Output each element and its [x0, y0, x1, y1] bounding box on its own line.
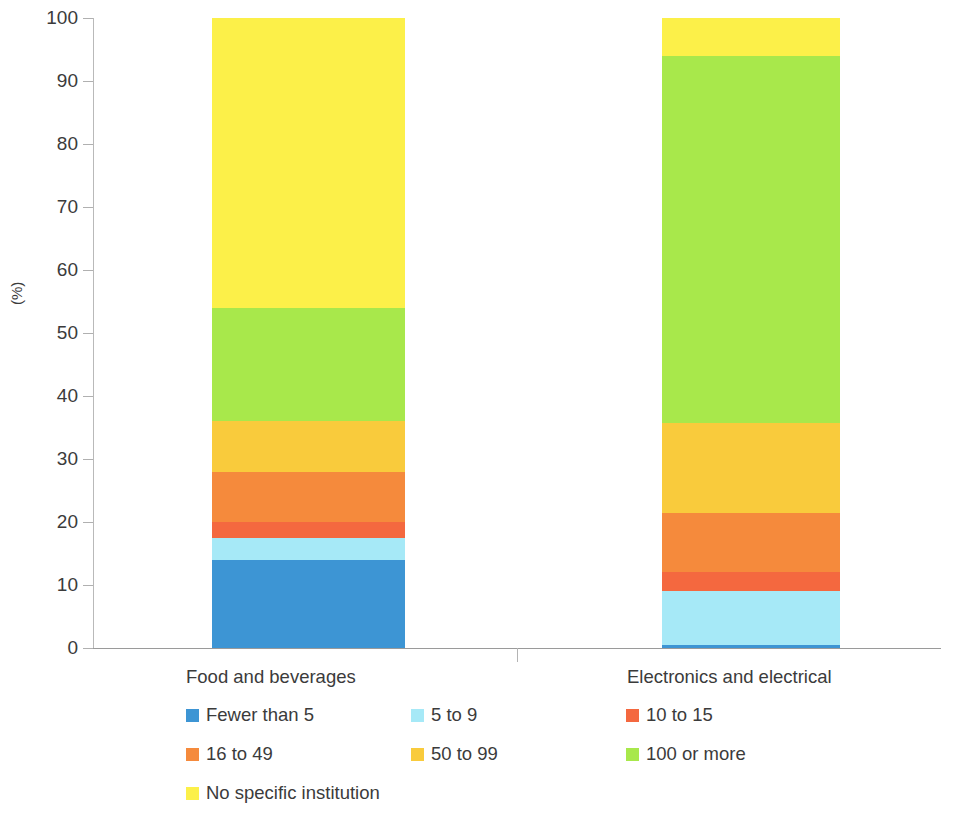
x-axis-centre-tick [517, 648, 518, 662]
bar-segment[interactable] [662, 645, 840, 648]
legend-swatch-icon [411, 709, 424, 722]
legend-row-3: No specific institution [186, 782, 886, 804]
legend-item-fewer-than-5[interactable]: Fewer than 5 [186, 704, 411, 726]
legend-label: 50 to 99 [431, 743, 498, 765]
legend-label: 5 to 9 [431, 704, 477, 726]
legend-item-100-or-more[interactable]: 100 or more [626, 743, 846, 765]
bar-segment[interactable] [662, 56, 840, 423]
bar-segment[interactable] [662, 513, 840, 573]
bar-segment[interactable] [212, 472, 405, 522]
legend-swatch-icon [186, 709, 199, 722]
category-label-electronics-and-electrical: Electronics and electrical [627, 666, 832, 688]
category-label-food-and-beverages: Food and beverages [186, 666, 356, 688]
y-tick-label-0: 0 [32, 638, 78, 657]
legend-swatch-icon [626, 709, 639, 722]
legend-item-10-to-15[interactable]: 10 to 15 [626, 704, 846, 726]
bar-segment[interactable] [212, 18, 405, 308]
y-tick-label-50: 50 [32, 323, 78, 342]
y-tick-label-80: 80 [32, 134, 78, 153]
bars-layer [93, 18, 941, 648]
legend-item-5-to-9[interactable]: 5 to 9 [411, 704, 626, 726]
bar-segment[interactable] [662, 591, 840, 645]
y-axis-labels: 100 90 80 70 60 50 40 30 20 10 0 [16, 0, 78, 817]
legend-swatch-icon [626, 748, 639, 761]
y-tick-label-70: 70 [32, 197, 78, 216]
bar-segment[interactable] [212, 538, 405, 560]
legend-item-16-to-49[interactable]: 16 to 49 [186, 743, 411, 765]
bar-electronics-and-electrical[interactable] [662, 18, 840, 648]
legend-swatch-icon [186, 787, 199, 800]
y-tick-label-60: 60 [32, 260, 78, 279]
bar-segment[interactable] [662, 18, 840, 56]
legend-label: No specific institution [206, 782, 380, 804]
legend-row-2: 16 to 49 50 to 99 100 or more [186, 743, 886, 765]
bar-segment[interactable] [662, 423, 840, 512]
bar-segment[interactable] [212, 308, 405, 421]
bar-segment[interactable] [212, 560, 405, 648]
legend-label: Fewer than 5 [206, 704, 314, 726]
legend-label: 10 to 15 [646, 704, 713, 726]
y-tick-label-20: 20 [32, 512, 78, 531]
stacked-bar-chart: (%) 100 90 80 70 60 50 40 30 20 10 0 Foo… [0, 0, 961, 817]
legend-item-no-specific-institution[interactable]: No specific institution [186, 782, 411, 804]
legend-swatch-icon [411, 748, 424, 761]
y-tick-label-100: 100 [32, 8, 78, 27]
legend-item-50-to-99[interactable]: 50 to 99 [411, 743, 626, 765]
bar-segment[interactable] [662, 572, 840, 591]
y-tick-label-90: 90 [32, 71, 78, 90]
legend-row-1: Fewer than 5 5 to 9 10 to 15 [186, 704, 886, 726]
y-tick-label-40: 40 [32, 386, 78, 405]
legend-label: 100 or more [646, 743, 746, 765]
bar-segment[interactable] [212, 522, 405, 538]
y-tick-label-30: 30 [32, 449, 78, 468]
legend: Fewer than 5 5 to 9 10 to 15 16 to 49 50… [186, 704, 886, 817]
legend-swatch-icon [186, 748, 199, 761]
bar-segment[interactable] [212, 421, 405, 471]
legend-label: 16 to 49 [206, 743, 273, 765]
bar-food-and-beverages[interactable] [212, 18, 405, 648]
y-tick-label-10: 10 [32, 575, 78, 594]
